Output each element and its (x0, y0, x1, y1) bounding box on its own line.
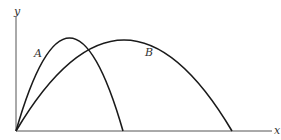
trajectory-diagram: y x A B (0, 0, 281, 140)
trajectory-a (16, 38, 123, 131)
curve-a-label: A (33, 47, 42, 60)
x-axis-label: x (274, 124, 281, 137)
curve-b-label: B (144, 46, 153, 59)
y-axis-label: y (13, 5, 21, 18)
